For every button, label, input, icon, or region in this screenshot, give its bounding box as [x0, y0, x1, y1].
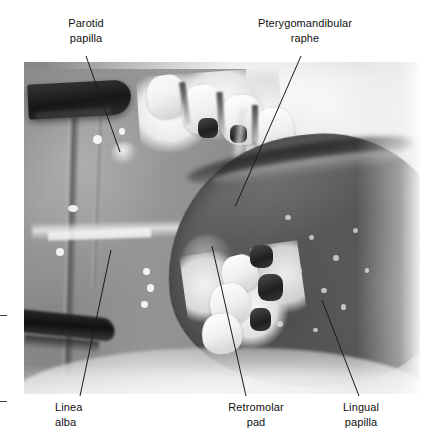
registration-mark-lower: [0, 401, 7, 402]
label-lingual-papilla: Lingual papilla: [328, 400, 394, 430]
leader-lingual-papilla: [322, 300, 359, 396]
label-pterygomandibular-raphe: Pterygomandibular raphe: [239, 16, 371, 46]
leader-linea-alba: [80, 250, 111, 396]
label-linea-alba: Linea alba: [55, 400, 125, 430]
leader-pterygomandibular-raphe: [235, 56, 301, 207]
leader-lines: [0, 0, 440, 435]
label-parotid-papilla: Parotid papilla: [44, 16, 128, 46]
registration-mark-upper: [0, 315, 7, 316]
anatomical-figure: Parotid papilla Pterygomandibular raphe …: [0, 0, 440, 435]
label-retromolar-pad: Retromolar pad: [214, 400, 298, 430]
leader-parotid-papilla: [86, 56, 120, 152]
leader-retromolar-pad: [212, 246, 246, 396]
